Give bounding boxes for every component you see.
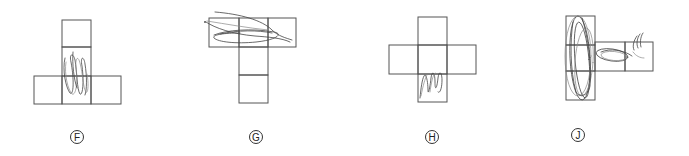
net-f — [34, 20, 121, 104]
figure-f[interactable]: F — [34, 20, 121, 144]
label-letter: J — [576, 130, 581, 141]
net-square — [34, 76, 62, 104]
option-label-f[interactable]: F — [71, 131, 84, 144]
net-j — [566, 16, 653, 100]
net-square — [389, 45, 418, 74]
scribble-marking-j — [565, 16, 644, 101]
net-square — [91, 76, 121, 104]
figure-j[interactable]: J — [565, 16, 653, 142]
net-square — [625, 42, 653, 71]
option-label-j[interactable]: J — [572, 129, 585, 142]
net-square — [239, 47, 268, 75]
option-label-g[interactable]: G — [250, 131, 263, 144]
net-square — [239, 75, 268, 103]
net-h — [389, 17, 476, 102]
net-square — [62, 20, 91, 47]
label-letter: H — [428, 132, 435, 143]
label-letter: F — [74, 132, 80, 143]
scribble-marking-f — [64, 52, 88, 95]
figure-g[interactable]: G — [204, 12, 296, 144]
scribble-marking-g — [204, 12, 292, 43]
net-square — [418, 17, 447, 45]
net-square — [595, 42, 625, 71]
scribble-marking-h — [420, 73, 442, 98]
net-square — [418, 45, 447, 74]
figure-h[interactable]: H — [389, 17, 476, 144]
label-letter: G — [252, 132, 260, 143]
net-square — [447, 45, 476, 74]
answer-choice-figures: F G — [0, 0, 689, 156]
net-square — [268, 18, 296, 47]
option-label-h[interactable]: H — [426, 131, 439, 144]
